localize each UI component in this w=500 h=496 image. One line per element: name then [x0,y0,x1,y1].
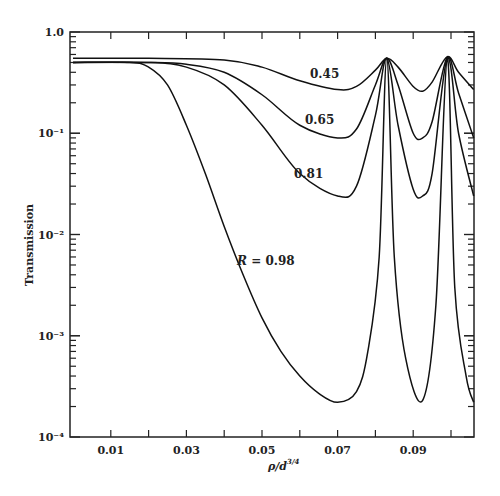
y-tick-label: 10⁻⁴ [38,431,64,444]
y-axis-title: Transmission [23,204,36,286]
curves [73,57,474,403]
curve-098 [73,58,474,402]
x-tick-label: 0.07 [324,444,351,457]
label-r065: 0.65 [305,113,334,127]
curve-081 [73,58,474,198]
y-tick-label: 10⁻³ [38,330,64,343]
x-tick-label: 0.05 [249,444,276,457]
x-tick-label: 0.03 [173,444,200,457]
x-tick-label: 0.01 [97,444,124,457]
x-ticks: 0.010.030.050.070.09 [97,32,451,457]
y-tick-label: 10⁻¹ [38,127,64,140]
plot-frame [70,32,474,437]
transmission-chart: 1.010⁻¹10⁻²10⁻³10⁻⁴ 0.010.030.050.070.09… [0,0,500,496]
x-axis-title: ρ/d3/4 [267,457,299,473]
y-tick-label: 1.0 [45,26,64,39]
axis-frame [70,32,474,437]
label-r045: 0.45 [310,67,339,81]
label-r081: 0.81 [294,167,323,181]
y-ticks: 1.010⁻¹10⁻²10⁻³10⁻⁴ [38,26,474,444]
label-r098: R = 0.98 [236,254,295,268]
x-tick-label: 0.09 [400,444,427,457]
curve-065 [73,57,474,140]
y-tick-label: 10⁻² [38,229,64,242]
